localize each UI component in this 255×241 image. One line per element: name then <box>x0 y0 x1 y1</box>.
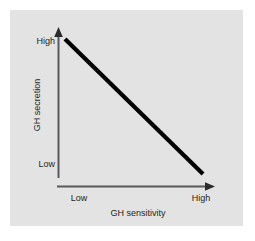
chart-figure: High Low Low High GH sensitivity GH secr… <box>0 0 255 241</box>
x-axis-low-label: Low <box>60 193 98 204</box>
y-axis-title: GH secretion <box>32 40 42 170</box>
x-axis-title: GH sensitivity <box>70 208 206 218</box>
x-axis-high-label: High <box>182 193 220 204</box>
